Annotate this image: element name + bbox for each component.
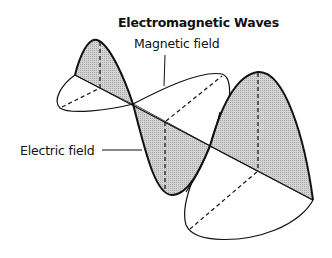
magnetic-leader-line <box>164 55 165 86</box>
em-wave-illustration <box>0 0 332 258</box>
